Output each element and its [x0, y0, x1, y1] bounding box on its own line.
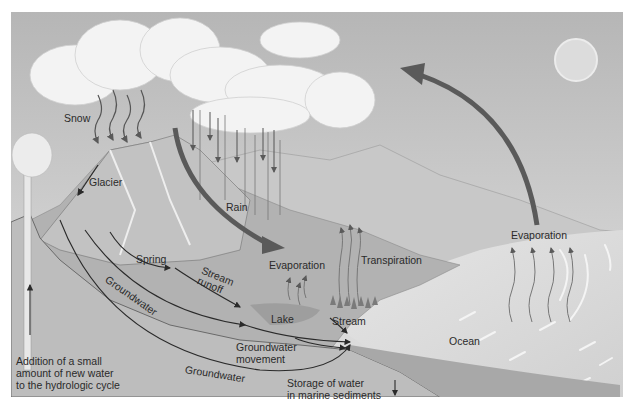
label-evaporation-land: Evaporation [269, 259, 325, 271]
label-groundwater-movement: Groundwater movement [236, 341, 297, 365]
volcanic-vent [24, 170, 31, 370]
label-glacier: Glacier [89, 176, 122, 188]
label-snow: Snow [64, 112, 90, 124]
volcanic-plume [12, 133, 52, 177]
sun-icon [555, 39, 597, 81]
label-spring: Spring [136, 253, 166, 265]
label-ocean: Ocean [449, 335, 480, 347]
label-transpiration: Transpiration [361, 254, 422, 266]
label-rain: Rain [226, 201, 248, 213]
water-cycle-illustration [0, 0, 633, 407]
label-evaporation-ocean: Evaporation [511, 229, 567, 241]
label-lake: Lake [271, 313, 294, 325]
label-marine-storage: Storage of water in marine sediments [287, 377, 381, 401]
label-stream: Stream [332, 315, 366, 327]
label-new-water: Addition of a small amount of new water … [16, 355, 120, 391]
